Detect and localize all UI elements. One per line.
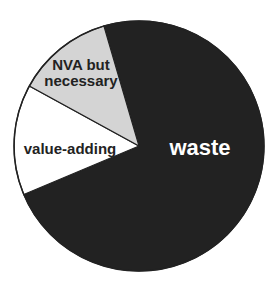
slice-label-nva-but-necessary: NVA butnecessary	[44, 56, 118, 89]
slice-label-waste: waste	[168, 135, 230, 160]
slice-label-value-adding: value-adding	[24, 140, 117, 157]
pie-chart: wastevalue-addingNVA butnecessary	[0, 0, 279, 295]
